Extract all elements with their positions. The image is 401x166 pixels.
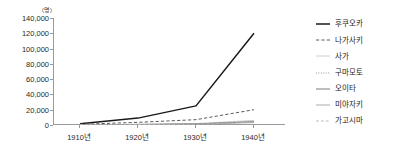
x-axis-tick-label: 1940년 xyxy=(241,131,265,142)
x-axis-tick-mark xyxy=(195,125,196,128)
legend-label: 후쿠오카 xyxy=(335,20,363,28)
series-line-0 xyxy=(80,33,254,124)
y-axis-tick-mark xyxy=(50,110,53,111)
y-axis-tick-label: 120,000 xyxy=(22,29,49,38)
plot-area xyxy=(53,18,285,125)
legend-line-icon xyxy=(316,85,330,93)
legend-label: 가고시마 xyxy=(335,117,363,125)
y-axis-tick-label: 40,000 xyxy=(26,90,49,99)
x-axis-tick-mark xyxy=(79,125,80,128)
y-axis-tick-mark xyxy=(50,33,53,34)
legend-label: 미야자키 xyxy=(335,101,363,109)
y-axis-tick-mark xyxy=(50,49,53,50)
legend-line-icon xyxy=(316,101,330,109)
legend-label: 사가 xyxy=(335,53,349,61)
legend-item[interactable]: 나가사키 xyxy=(316,32,401,48)
y-axis-tick-label: 80,000 xyxy=(26,59,49,68)
x-axis-tick-mark xyxy=(137,125,138,128)
series-lines xyxy=(54,18,286,125)
legend-line-icon xyxy=(316,117,330,125)
legend-item[interactable]: 미야자키 xyxy=(316,97,401,113)
legend-item[interactable]: 구마모토 xyxy=(316,65,401,81)
chart-legend: 후쿠오카나가사키사가구마모토오이타미야자키가고시마 xyxy=(316,16,401,129)
y-axis-tick-mark xyxy=(50,18,53,19)
x-axis-tick-label: 1910년 xyxy=(67,131,91,142)
x-axis-tick-label: 1930년 xyxy=(183,131,207,142)
y-axis-tick-label: 140,000 xyxy=(22,14,49,23)
x-axis-tick-label: 1920년 xyxy=(125,131,149,142)
y-axis-tick-label: 60,000 xyxy=(26,75,49,84)
y-axis-tick-mark xyxy=(50,64,53,65)
x-axis-tick-mark xyxy=(253,125,254,128)
legend-item[interactable]: 가고시마 xyxy=(316,113,401,129)
legend-label: 구마모토 xyxy=(335,69,363,77)
legend-line-icon xyxy=(316,36,330,44)
legend-item[interactable]: 오이타 xyxy=(316,81,401,97)
y-axis-tick-mark xyxy=(50,125,53,126)
legend-line-icon xyxy=(316,69,330,77)
legend-line-icon xyxy=(316,52,330,60)
legend-line-icon xyxy=(316,20,330,28)
legend-item[interactable]: 후쿠오카 xyxy=(316,16,401,32)
y-axis-tick-mark xyxy=(50,94,53,95)
y-axis-tick-labels: 020,00040,00060,00080,000100,000120,0001… xyxy=(0,0,53,166)
line-chart: (명) 020,00040,00060,00080,000100,000120,… xyxy=(0,0,401,166)
legend-label: 오이타 xyxy=(335,85,356,93)
legend-item[interactable]: 사가 xyxy=(316,48,401,64)
legend-label: 나가사키 xyxy=(335,37,363,45)
y-axis-tick-label: 0 xyxy=(45,121,49,130)
y-axis-tick-label: 100,000 xyxy=(22,44,49,53)
y-axis-tick-mark xyxy=(50,79,53,80)
y-axis-tick-label: 20,000 xyxy=(26,105,49,114)
